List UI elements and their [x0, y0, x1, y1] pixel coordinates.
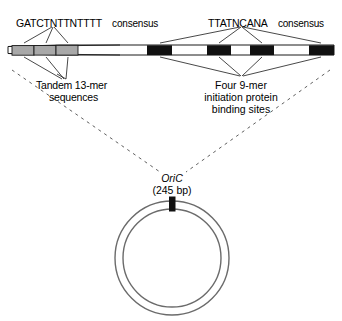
- 13-mer-box-1: [12, 46, 34, 56]
- oric-diagram: GATCTNTTNTTTT consensus TTATNCANA consen…: [0, 0, 342, 321]
- left-caption-leader-1: [24, 57, 62, 79]
- left-caption-line-1: Tandem 13-mer: [36, 80, 107, 92]
- diagram-vector-layer: [0, 0, 342, 321]
- chromosome-inner-ring: [123, 209, 221, 307]
- left-caption-line-2: sequences: [40, 92, 107, 104]
- oric-name: OriC: [152, 172, 191, 184]
- right-caption-leader-1: [160, 57, 240, 76]
- right-caption: Four 9-mer initiation protein binding si…: [204, 79, 278, 115]
- left-caption-leader-2: [46, 57, 64, 79]
- oric-tick-marker: [169, 197, 176, 212]
- thirteenmer-boxes: [12, 45, 78, 55]
- left-caption-leader-lines: [24, 57, 68, 79]
- chromosome-outer-ring: [115, 201, 229, 315]
- right-caption-leader-lines: [160, 57, 321, 76]
- right-caption-line-1: Four 9-mer: [204, 79, 278, 91]
- right-caption-leader-3: [242, 57, 262, 76]
- left-caption: Tandem 13-mer sequences: [36, 80, 107, 104]
- circular-chromosome: [115, 197, 229, 316]
- right-consensus-word: consensus: [278, 18, 324, 29]
- 9-mer-box-1: [147, 45, 172, 55]
- right-consensus-sequence: TTATNCANA: [208, 17, 268, 29]
- right-caption-line-3: binding sites: [204, 103, 278, 115]
- 9-mer-box-2: [207, 45, 231, 55]
- left-consensus-label: GATCTNTTNTTTT consensus: [16, 13, 158, 31]
- right-caption-leader-4: [243, 57, 321, 76]
- 9-mer-box-3: [250, 45, 274, 55]
- 13-mer-box-2: [34, 46, 56, 56]
- 9-mer-box-4: [309, 45, 334, 55]
- left-consensus-sequence: GATCTNTTNTTTT: [16, 17, 102, 29]
- right-caption-leader-2: [219, 57, 241, 76]
- oric-size: (245 bp): [152, 184, 191, 196]
- oric-label: OriC (245 bp): [152, 172, 191, 196]
- 13-mer-box-3: [56, 45, 78, 55]
- right-caption-line-2: initiation protein: [204, 91, 278, 103]
- left-consensus-word: consensus: [112, 18, 158, 29]
- right-consensus-label: TTATNCANA consensus: [208, 13, 324, 31]
- left-caption-leader-3: [66, 57, 68, 79]
